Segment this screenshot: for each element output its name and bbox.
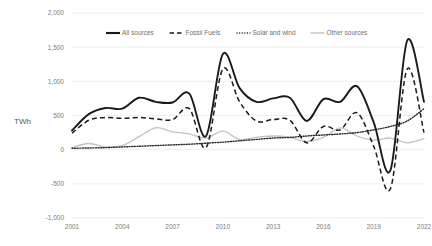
series-all-sources (72, 39, 424, 173)
data-series-group (72, 39, 424, 191)
x-axis-tick-labels: 20012004200720102013201620192022 (65, 223, 432, 230)
y-tick-label: -500 (51, 180, 64, 187)
legend-item-all-sources[interactable]: All sources (106, 29, 155, 36)
legend-label: Other sources (327, 29, 369, 36)
legend-label: Fossil Fuels (186, 29, 221, 36)
y-tick-label: -1,000 (46, 214, 65, 221)
x-tick-label: 2007 (165, 223, 180, 230)
y-axis-title: TWh (14, 117, 31, 126)
y-tick-label: 2,000 (48, 9, 65, 16)
y-axis-tick-labels: 2,0001,5001,0005000-500-1,000 (46, 9, 65, 221)
x-tick-label: 2019 (366, 223, 381, 230)
legend-label: Solar and wind (253, 29, 296, 36)
chart-legend: All sourcesFossil FuelsSolar and windOth… (106, 29, 368, 36)
legend-item-other-sources[interactable]: Other sources (311, 29, 369, 36)
x-tick-label: 2013 (266, 223, 281, 230)
x-tick-label: 2001 (65, 223, 80, 230)
legend-item-fossil-fuels[interactable]: Fossil Fuels (170, 29, 221, 36)
y-tick-label: 0 (60, 146, 64, 153)
y-tick-label: 1,000 (48, 78, 65, 85)
line-chart: 2,0001,5001,0005000-500-1,000 2001200420… (0, 0, 432, 246)
series-fossil-fuels (72, 68, 424, 191)
x-tick-label: 2010 (216, 223, 231, 230)
y-tick-label: 500 (53, 112, 64, 119)
y-tick-label: 1,500 (48, 44, 65, 51)
chart-container: 2,0001,5001,0005000-500-1,000 2001200420… (0, 0, 432, 246)
x-tick-label: 2004 (115, 223, 130, 230)
legend-label: All sources (122, 29, 155, 36)
x-tick-label: 2016 (316, 223, 331, 230)
x-tick-label: 2022 (417, 223, 432, 230)
legend-item-solar-and-wind[interactable]: Solar and wind (237, 29, 296, 36)
